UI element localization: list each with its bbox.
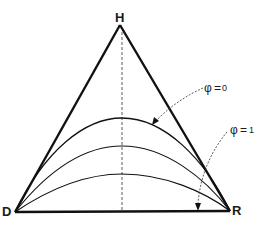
vertex-label-d: D	[2, 204, 11, 219]
arrowhead-phi-0	[152, 117, 159, 125]
curve-upper	[15, 118, 230, 212]
arrow-phi-1	[198, 132, 227, 204]
phi-equals-1: =	[240, 123, 247, 137]
arrowhead-phi-1	[195, 203, 201, 211]
arrow-phi-0	[155, 88, 203, 122]
vertex-label-h: H	[115, 10, 124, 25]
edge-d-r	[15, 211, 230, 212]
phi-value-1: 1	[249, 125, 254, 135]
phi-symbol-1: φ	[230, 123, 238, 137]
phi-value-0: 0	[222, 83, 227, 93]
phi-equals-0: =	[214, 81, 221, 95]
vertex-label-r: R	[232, 203, 242, 218]
phi-symbol-0: φ	[204, 81, 212, 95]
ternary-diagram: H D R φ = 0 φ = 1	[0, 0, 262, 225]
